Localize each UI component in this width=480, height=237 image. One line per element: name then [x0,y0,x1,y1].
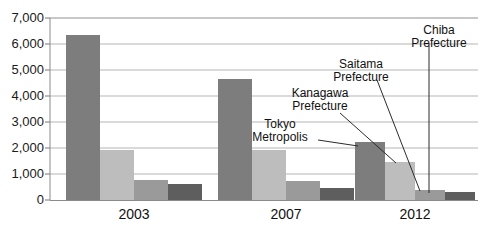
bar-2003-chiba [168,184,202,200]
bar-chart: 7,000 6,000 5,000 4,000 3,000 2,000 1,00… [0,0,480,237]
callout-saitama-line2: Prefecture [322,71,400,84]
callout-chiba-line1: Chiba [400,24,478,37]
leader-line-tokyo [318,140,358,146]
bar-2007-saitama [286,181,320,200]
callout-saitama-line1: Saitama [322,58,400,71]
bar-2012-saitama [415,190,445,200]
callout-tokyo-line1: Tokyo [238,118,322,131]
callout-chiba: Chiba Prefecture [400,24,478,51]
x-tick-2003: 2003 [94,206,174,222]
bar-2003-tokyo [66,35,100,200]
bar-group-2003 [66,35,202,200]
callout-kanagawa: Kanagawa Prefecture [278,87,362,114]
bar-2012-tokyo [355,142,385,200]
x-tick-2012: 2012 [375,206,455,222]
y-axis-ticks [45,18,50,200]
bar-2003-saitama [134,180,168,200]
callout-kanagawa-line2: Prefecture [278,100,362,113]
callout-chiba-line2: Prefecture [400,37,478,50]
bar-2012-chiba [445,192,475,200]
x-tick-2007: 2007 [246,206,326,222]
callout-kanagawa-line1: Kanagawa [278,87,362,100]
callout-tokyo-line2: Metropolis [238,131,322,144]
bar-group-2012 [355,142,475,200]
bar-2003-kanagawa [100,150,134,200]
callout-tokyo: Tokyo Metropolis [238,118,322,145]
callout-saitama: Saitama Prefecture [322,58,400,85]
bar-2007-chiba [320,188,354,200]
bar-2007-kanagawa [252,150,286,200]
